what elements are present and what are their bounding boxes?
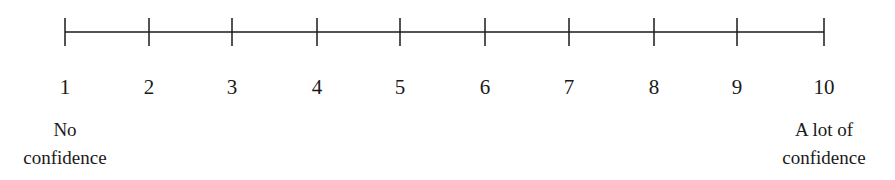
tick-label: 4 bbox=[312, 75, 323, 100]
tick-label: 5 bbox=[395, 75, 406, 100]
anchor-high-label: A lot of confidence bbox=[782, 116, 865, 172]
tick-label: 1 bbox=[60, 75, 71, 100]
tick-label: 10 bbox=[814, 75, 835, 100]
anchor-high-line2: confidence bbox=[782, 144, 865, 172]
tick-label: 9 bbox=[732, 75, 743, 100]
tick-label: 3 bbox=[227, 75, 238, 100]
tick-label: 2 bbox=[144, 75, 155, 100]
anchor-low-label: No confidence bbox=[23, 116, 106, 172]
rating-scale-line bbox=[0, 0, 895, 180]
tick-label: 6 bbox=[480, 75, 491, 100]
anchor-low-line1: No bbox=[23, 116, 106, 144]
tick-label: 8 bbox=[649, 75, 660, 100]
anchor-high-line1: A lot of bbox=[782, 116, 865, 144]
anchor-low-line2: confidence bbox=[23, 144, 106, 172]
tick-label: 7 bbox=[564, 75, 575, 100]
